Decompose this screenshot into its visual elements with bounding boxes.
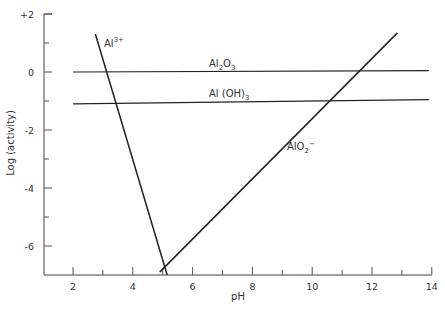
series-lines — [73, 33, 429, 275]
x-tick-label: 10 — [306, 281, 318, 292]
label-aloh3: Al (OH)3 — [209, 88, 249, 102]
label-al3plus: Al3+ — [104, 36, 124, 49]
label-al2o3: Al2O3 — [209, 58, 235, 72]
y-tick-label: -4 — [25, 183, 34, 194]
series-line-al2o3 — [73, 71, 429, 72]
y-tick-label: -2 — [25, 125, 34, 136]
series-line-alo2 — [160, 33, 398, 272]
x-tick-label: 4 — [130, 281, 136, 292]
series-line-al3 — [95, 34, 167, 275]
y-tick-label: 0 — [28, 67, 34, 78]
series-line-aloh3 — [73, 100, 429, 104]
x-tick-label: 14 — [426, 281, 438, 292]
x-tick-label: 8 — [249, 281, 255, 292]
x-tick-label: 12 — [366, 281, 378, 292]
y-tick-label: +2 — [20, 9, 34, 20]
y-axis-label: Log (activity) — [5, 110, 16, 176]
x-tick-label: 6 — [190, 281, 196, 292]
x-axis-label: pH — [231, 291, 245, 302]
series-labels: Al3+Al2O3Al (OH)3AlO2− — [104, 36, 315, 155]
axes: +20-2-4-62468101214 — [20, 9, 438, 293]
chart: +20-2-4-62468101214 Al3+Al2O3Al (OH)3AlO… — [0, 0, 445, 310]
label-alo2minus: AlO2− — [287, 140, 315, 155]
x-tick-label: 2 — [70, 281, 76, 292]
y-tick-label: -6 — [25, 241, 34, 252]
